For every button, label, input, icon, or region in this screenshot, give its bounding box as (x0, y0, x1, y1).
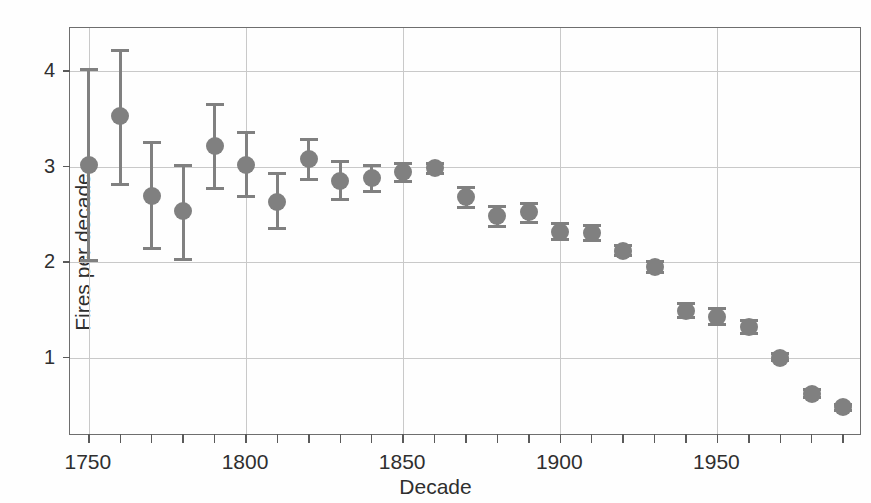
x-tick-label: 1800 (222, 451, 269, 472)
x-axis-tick-labels: 17501800185019001950 (0, 0, 871, 503)
x-tick-label: 1950 (693, 451, 740, 472)
x-tick-label: 1750 (64, 451, 111, 472)
x-tick-label: 1900 (536, 451, 583, 472)
chart-figure: Fires per decade Decade 1234 17501800185… (0, 0, 871, 503)
x-tick-label: 1850 (379, 451, 426, 472)
